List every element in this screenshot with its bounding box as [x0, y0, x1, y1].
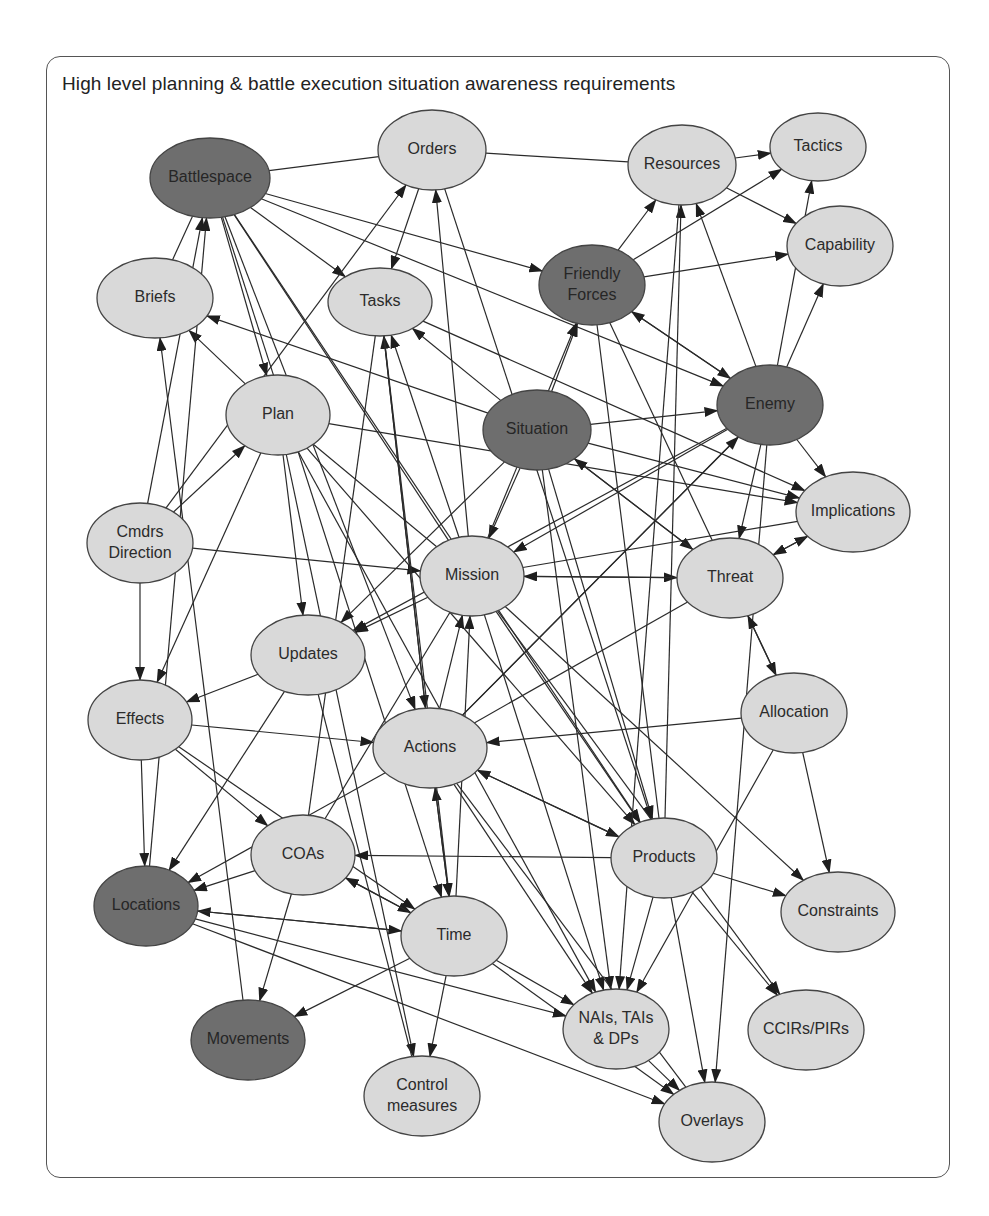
node-label: Effects — [116, 710, 165, 727]
edge-enemy-to-implications — [797, 440, 826, 477]
edge-effects-to-locations — [141, 760, 144, 866]
node-ccirs: CCIRs/PIRs — [748, 990, 864, 1070]
edge-products-to-actions — [477, 770, 619, 837]
edge-plan-to-updates — [283, 455, 303, 615]
node-resources: Resources — [628, 125, 736, 205]
node-updates: Updates — [251, 615, 365, 695]
edge-resources-to-tactics — [735, 153, 771, 158]
edge-situation-to-tasks — [413, 329, 501, 401]
edge-coas-to-locations — [194, 871, 255, 891]
node-label: Plan — [262, 405, 294, 422]
edge-resources-to-capability — [726, 188, 796, 224]
node-label: Products — [632, 848, 695, 865]
edge-battlespace-to-plan — [221, 217, 266, 376]
edge-products-to-overlays — [671, 898, 705, 1083]
edge-plan-to-briefs — [189, 330, 245, 384]
node-label: Locations — [112, 896, 181, 913]
edge-products-to-ccirs — [692, 892, 777, 995]
edge-implications-to-threat — [773, 536, 808, 555]
node-nais: NAIs, TAIs& DPs — [563, 989, 669, 1069]
edge-situation-to-implications — [588, 443, 800, 498]
node-label: Direction — [108, 544, 171, 561]
node-label: Updates — [278, 645, 338, 662]
node-allocation: Allocation — [741, 673, 847, 753]
node-overlays: Overlays — [659, 1082, 765, 1162]
node-label: Forces — [568, 286, 617, 303]
node-label: Control — [396, 1076, 448, 1093]
node-capability: Capability — [787, 206, 893, 286]
edge-time-to-movements — [294, 958, 410, 1016]
edge-threat-to-situation — [575, 459, 693, 550]
node-label: Implications — [811, 502, 895, 519]
node-coas: COAs — [251, 815, 355, 895]
edge-time-to-coas — [346, 878, 411, 913]
node-constraints: Constraints — [781, 872, 895, 952]
edge-effects-to-actions — [192, 725, 374, 743]
node-actions: Actions — [373, 708, 487, 788]
node-label: Capability — [805, 236, 875, 253]
node-plan: Plan — [226, 375, 330, 455]
edge-plan-to-mission — [313, 444, 436, 546]
node-label: Enemy — [745, 395, 795, 412]
node-situation: Situation — [483, 390, 591, 470]
node-briefs: Briefs — [97, 258, 213, 338]
edge-time-to-control-measures — [430, 976, 446, 1057]
edge-actions-to-mission — [440, 615, 463, 708]
node-label: Cmdrs — [116, 523, 163, 540]
edge-allocation-to-constraints — [803, 753, 830, 873]
edge-enemy-to-capability — [787, 284, 824, 367]
node-tactics: Tactics — [770, 113, 866, 181]
node-label: Battlespace — [168, 168, 252, 185]
edge-cmdrs-direction-to-plan — [174, 446, 245, 512]
node-mission: Mission — [420, 536, 524, 616]
node-label: Resources — [644, 155, 720, 172]
node-threat: Threat — [677, 538, 783, 618]
edge-effects-to-coas — [175, 749, 267, 825]
node-label: Situation — [506, 420, 568, 437]
edge-situation-to-mission — [489, 468, 520, 538]
edge-allocation-to-actions — [487, 718, 742, 743]
node-label: Actions — [404, 738, 456, 755]
edge-coas-to-movements — [260, 894, 292, 1001]
edge-allocation-to-threat — [748, 616, 776, 676]
edge-products-to-coas — [355, 855, 611, 857]
edge-time-to-nais — [496, 960, 574, 1005]
node-label: Tasks — [360, 292, 401, 309]
node-battlespace: Battlespace — [150, 138, 270, 218]
node-enemy: Enemy — [717, 365, 823, 445]
edge-updates-to-effects — [187, 674, 259, 702]
edge-situation-to-friendly-forces — [552, 324, 578, 392]
edge-products-to-resources — [665, 205, 681, 818]
node-time: Time — [401, 896, 507, 976]
edge-enemy-to-threat — [739, 444, 761, 538]
node-orders: Orders — [378, 110, 486, 190]
node-label: Friendly — [564, 265, 621, 282]
node-movements: Movements — [191, 1000, 305, 1080]
node-label: measures — [387, 1097, 457, 1114]
node-label: Movements — [207, 1030, 290, 1047]
node-label: Tactics — [794, 137, 843, 154]
node-label: Briefs — [135, 288, 176, 305]
node-cmdrs-direction: CmdrsDirection — [87, 503, 193, 583]
edge-tasks-to-time — [384, 336, 449, 896]
node-label: NAIs, TAIs — [579, 1009, 654, 1026]
node-label: COAs — [282, 845, 325, 862]
node-control-measures: Controlmeasures — [364, 1056, 480, 1136]
node-friendly-forces: FriendlyForces — [539, 245, 645, 325]
edge-products-to-constraints — [713, 873, 786, 896]
edge-friendly-forces-to-products — [597, 325, 659, 818]
node-label: Orders — [408, 140, 457, 157]
node-label: Threat — [707, 568, 754, 585]
node-effects: Effects — [88, 680, 192, 760]
edge-orders-to-resources — [486, 153, 628, 162]
edge-battlespace-to-briefs — [173, 216, 193, 260]
node-label: CCIRs/PIRs — [763, 1020, 849, 1037]
edge-situation-to-enemy — [590, 411, 717, 425]
edge-friendly-forces-to-resources — [618, 200, 656, 250]
graph-canvas: BattlespaceOrdersResourcesTacticsCapabil… — [0, 0, 989, 1216]
node-label: Allocation — [759, 703, 828, 720]
edge-threat-to-actions — [474, 602, 687, 723]
edge-enemy-to-resources — [696, 204, 756, 367]
node-locations: Locations — [94, 866, 198, 946]
node-label: & DPs — [593, 1030, 638, 1047]
